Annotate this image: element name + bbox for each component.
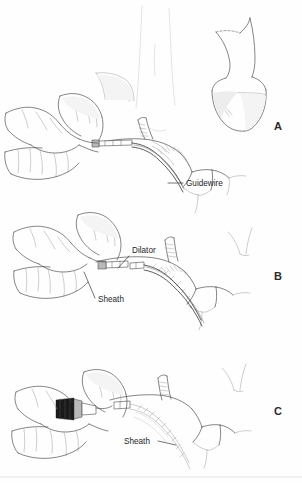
label-sheath-c-text: Sheath [124,437,150,446]
panel-a-needle-and-guidewire [92,140,184,192]
panel-c-puncture-site [158,375,171,400]
panel-b-shoulder [228,228,252,256]
panel-letter-c: C [274,405,282,417]
panel-b-puncture-site [162,237,192,281]
panel-letter-a: A [274,120,282,132]
panel-c: Sheath C [12,364,282,469]
panel-a-torso [96,6,175,131]
panel-b-chest-surface [96,257,250,330]
panel-b: Dilator Sheath B [13,213,282,330]
panel-a-operator-hand [5,94,103,180]
panel-a-chest-surface [97,139,246,213]
panel-a: Guidewire A [5,6,282,213]
panel-b-dilator-sheath-assembly [98,261,204,326]
panel-b-label-sheath: Sheath [84,272,124,304]
panel-c-label-sheath: Sheath [124,437,176,446]
medical-illustration-figure: Guidewire A [0,0,302,483]
panel-letter-b: B [274,270,282,282]
panel-c-chest-surface [110,395,251,468]
illustration-canvas: Guidewire A [0,0,302,483]
label-dilator-text: Dilator [132,246,156,255]
panel-c-catheter-hub [56,398,112,420]
panel-c-shoulder [222,364,246,392]
label-guidewire-text: Guidewire [186,179,223,188]
panel-b-operator-hand [13,213,121,299]
panel-a-shoulder [212,18,266,131]
label-sheath-b-text: Sheath [98,295,124,304]
